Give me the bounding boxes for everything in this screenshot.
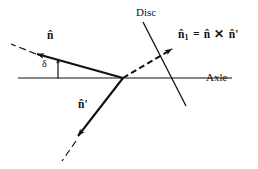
vector-diagram-figure: Disc n̂ δ n̂' Axle n̂1 = n̂ ✕ n̂': [0, 0, 258, 169]
diagram-canvas: [0, 0, 258, 169]
delta-angle-label: δ: [42, 59, 47, 69]
n-hat-prime-dashed-extension: [62, 141, 76, 161]
equation-lhs: n̂: [178, 28, 185, 40]
n-hat-prime-label: n̂': [78, 99, 88, 111]
cross-product-equation: n̂1 = n̂ ✕ n̂': [178, 29, 239, 42]
axle-label: Axle: [206, 72, 227, 83]
equation-operand-a: n̂: [204, 28, 211, 40]
cross-product-operator: ✕: [213, 28, 225, 40]
disc-label: Disc: [136, 7, 156, 18]
n-hat-label: n̂: [47, 30, 53, 42]
equation-equals: =: [192, 28, 201, 40]
n-hat-dashed-extension: [11, 44, 36, 54]
equation-operand-b: n̂': [229, 28, 239, 40]
equation-lhs-subscript: 1: [185, 33, 189, 42]
n-hat-vector: [37, 54, 123, 78]
